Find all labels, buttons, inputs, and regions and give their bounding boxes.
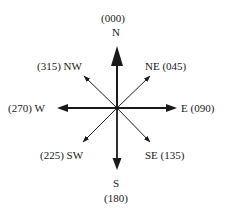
west-arrow	[57, 104, 117, 112]
south-bearing-label: (180)	[104, 192, 128, 204]
northwest-label: (315) NW	[37, 60, 82, 72]
southwest-arrow	[83, 108, 117, 142]
southwest-label: (225) SW	[40, 149, 83, 161]
center-point	[115, 106, 119, 110]
north-arrow	[111, 46, 123, 108]
north-bearing-label: (000)	[101, 12, 125, 24]
west-label: (270) W	[8, 102, 45, 114]
south-arrow	[113, 108, 122, 170]
south-letter-label: S	[113, 177, 119, 189]
north-arrowhead-icon	[111, 46, 123, 66]
compass-rose-diagram: (000) N NE (045) (315) NW E (090) (270) …	[0, 0, 230, 213]
east-label: E (090)	[181, 102, 214, 114]
southeast-label: SE (135)	[145, 149, 184, 161]
west-arrowhead-icon	[57, 104, 68, 112]
southeast-arrow	[117, 108, 150, 142]
northeast-label: NE (045)	[145, 60, 186, 72]
north-letter-label: N	[112, 26, 120, 38]
northwest-arrow	[84, 76, 117, 108]
south-arrowhead-icon	[113, 158, 122, 170]
east-arrow	[117, 104, 177, 112]
northeast-arrow	[117, 76, 150, 108]
east-arrowhead-icon	[166, 104, 177, 112]
